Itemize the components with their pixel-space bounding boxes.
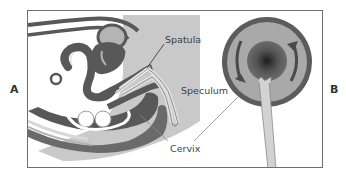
panel-a-anatomy: Spatula Speculum Cervix <box>28 15 238 161</box>
cervical-os <box>247 41 287 81</box>
speculum-label: Speculum <box>181 85 228 96</box>
pubic-segment-1 <box>78 111 94 127</box>
panel-label-b: B <box>330 83 338 96</box>
panel-b-cervix-view <box>222 17 312 168</box>
cervix-label: Cervix <box>170 143 201 154</box>
spatula-label: Spatula <box>165 34 201 45</box>
diagram-canvas: Spatula Speculum Cervix <box>28 11 323 168</box>
small-loop <box>51 74 61 84</box>
pubic-segment-2 <box>95 111 111 127</box>
cervix-leader-b <box>194 97 238 141</box>
figure-frame: Spatula Speculum Cervix <box>27 10 323 168</box>
uterus <box>91 42 126 74</box>
panel-label-a: A <box>10 83 19 96</box>
bowel-inner <box>70 53 74 65</box>
